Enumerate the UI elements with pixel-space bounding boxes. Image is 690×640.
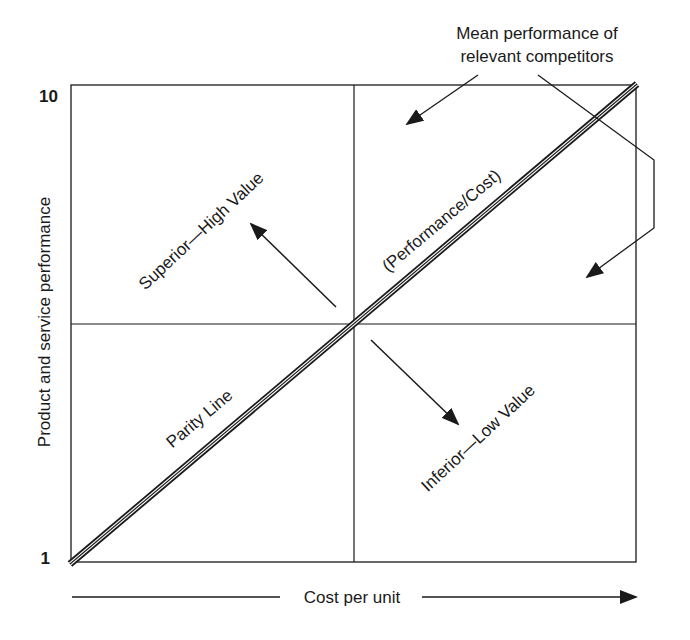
parity-line-label: Parity Line [163,386,237,452]
inferior-direction-arrow [371,340,458,424]
superior-high-value-label: Superior—High Value [135,168,267,293]
value-map-diagram: 10 1 Product and service performance Cos… [0,0,690,640]
y-max-label: 10 [39,87,58,106]
inferior-low-value-label: Inferior—Low Value [418,381,539,496]
competitors-label-line1: Mean performance of [456,24,618,43]
competitors-leader-arrow-left [407,75,478,124]
y-min-label: 1 [41,549,50,568]
y-axis-title: Product and service performance [35,197,54,447]
performance-cost-label: (Performance/Cost) [379,166,505,276]
superior-direction-arrow [251,224,336,307]
competitors-label-line2: relevant competitors [460,47,613,66]
x-axis-title: Cost per unit [304,588,401,607]
